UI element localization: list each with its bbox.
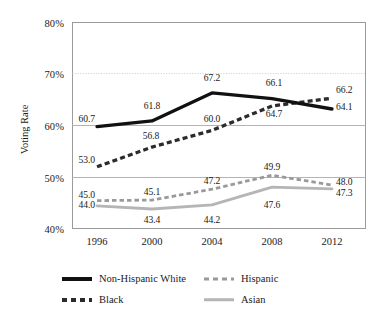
y-tick-80: 80% [30, 18, 64, 29]
legend-label-black: Black [99, 294, 124, 305]
legend-item-non-hispanic-white[interactable]: Non-Hispanic White [62, 273, 204, 284]
legend-item-black[interactable]: Black [62, 294, 204, 305]
solid-thick-black-line-icon [62, 274, 92, 284]
data-label-white-1996: 60.7 [79, 113, 95, 124]
data-label-hispanic-2004: 47.2 [204, 175, 220, 186]
data-label-asian-2004: 44.2 [204, 214, 220, 225]
x-tick-2012: 2012 [322, 236, 343, 247]
x-tick-2008: 2008 [262, 236, 283, 247]
data-label-white-2004: 67.2 [204, 72, 220, 83]
y-tick-40: 40% [30, 224, 64, 235]
dashed-gray-line-icon [204, 274, 234, 284]
legend-label-asian: Asian [241, 294, 266, 305]
data-label-asian-2000: 43.4 [144, 214, 160, 225]
series-line-black [97, 98, 332, 167]
data-label-black-2008: 64.7 [266, 108, 282, 119]
y-axis-title: Voting Rate [19, 85, 30, 175]
data-label-hispanic-2008: 49.9 [264, 161, 280, 172]
data-label-hispanic-2012: 48.0 [336, 176, 352, 187]
chart-legend: Non-Hispanic White Hispanic Black Asian [62, 268, 362, 310]
data-label-asian-1996: 44.0 [79, 199, 95, 210]
data-label-white-2008: 66.1 [266, 77, 282, 88]
data-label-asian-2008: 47.6 [264, 199, 280, 210]
data-label-asian-2012: 47.3 [336, 187, 352, 198]
x-tick-2004: 2004 [202, 236, 223, 247]
data-label-hispanic-2000: 45.1 [144, 186, 160, 197]
x-tick-1996: 1996 [87, 236, 108, 247]
voting-rate-line-chart: Voting Rate 80% 70% 60% 50% 40% 1996 200… [0, 0, 384, 320]
series-line-asian [97, 187, 332, 209]
legend-item-hispanic[interactable]: Hispanic [204, 273, 346, 284]
data-label-black-2000: 56.8 [143, 130, 159, 141]
legend-item-asian[interactable]: Asian [204, 294, 346, 305]
dashed-dark-line-icon [62, 295, 92, 305]
y-tick-60: 60% [30, 121, 64, 132]
y-tick-70: 70% [30, 69, 64, 80]
legend-label-non-hispanic-white: Non-Hispanic White [99, 273, 186, 284]
legend-label-hispanic: Hispanic [241, 273, 278, 284]
data-label-white-2000: 61.8 [144, 100, 160, 111]
data-label-white-2012: 64.1 [336, 101, 352, 112]
data-label-black-2012: 66.2 [336, 84, 352, 95]
data-label-black-2004: 60.0 [204, 113, 220, 124]
solid-lightgray-line-icon [204, 295, 234, 305]
x-tick-2000: 2000 [142, 236, 163, 247]
y-tick-50: 50% [30, 173, 64, 184]
data-label-black-1996: 53.0 [79, 154, 95, 165]
